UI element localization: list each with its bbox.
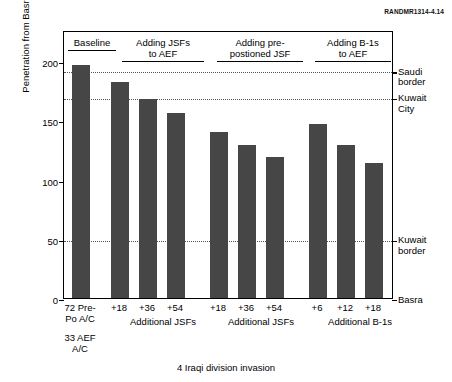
x-tick-label: +54 [155,302,195,313]
reference-line-saudi [64,72,392,73]
reference-tickmark [392,99,397,100]
reference-label-line1: Basra [398,295,423,306]
group-header-line1: Baseline [66,38,118,49]
x-tick-line2: Po A/C [48,313,112,324]
reference-tickmark [392,72,397,73]
y-axis-tick-150: 150 [24,117,64,128]
x-tick-label: +18 [353,302,393,313]
x-tick-line4: A/C [48,343,112,354]
figure-root: RANDMR1314-4.14 Penetration from Basra (… [0,0,452,382]
group-header-rule [68,50,116,51]
source-id-label: RANDMR1314-4.14 [384,8,444,15]
bar [337,145,355,298]
group-header-rule [217,61,303,62]
group-header-1: Baseline [66,38,118,51]
reference-label-line2: border [398,77,425,88]
bar [266,157,284,298]
group-header-2: Adding JSFsto AEF [120,38,206,62]
x-tick-line3: 33 AEF [48,332,112,343]
y-axis-tick-100: 100 [24,176,64,187]
group-header-line1: Adding B-1s [313,38,393,49]
reference-tickmark [392,300,397,301]
group-header-3: Adding pre-postioned JSF [215,38,305,62]
reference-label-saudi: Saudiborder [398,66,425,87]
reference-label-line2: border [398,245,427,256]
bar [238,145,256,298]
bar [309,124,327,298]
group-header-line2: to AEF [120,49,206,60]
reference-label-line2: City [398,103,427,114]
group-header-line2: to AEF [313,49,393,60]
reference-tickmark [392,241,397,242]
x-tick-label: +54 [254,302,294,313]
group-header-line2: postioned JSF [215,49,305,60]
bar [210,132,228,298]
y-axis-tick-50: 50 [24,235,64,246]
group-header-rule [315,61,391,62]
reference-label-line1: Kuwait [398,235,427,246]
reference-label-kuwait: KuwaitCity [398,93,427,114]
plot-frame: Penetration from Basra (km) 050100150200… [63,31,393,299]
bar [111,82,129,298]
figure-caption: 4 Iraqi division invasion [0,362,452,373]
y-axis-tickmark [59,300,64,301]
group-header-4: Adding B-1sto AEF [313,38,393,62]
group-header-rule [122,61,204,62]
bar [139,99,157,298]
y-axis-tickmark [59,63,64,64]
y-axis-tick-200: 200 [24,58,64,69]
reference-label-line1: Kuwait [398,93,427,104]
y-axis-tickmark [59,122,64,123]
reference-label-basra: Basra [398,295,423,306]
bar [72,65,90,298]
reference-label-kuwait: Kuwaitborder [398,235,427,256]
group-header-line1: Adding pre- [215,38,305,49]
group-header-line1: Adding JSFs [120,38,206,49]
reference-label-line1: Saudi [398,66,425,77]
bar [167,113,185,298]
group-subtitle-4: Additional B-1s [300,316,420,327]
bar [365,163,383,298]
y-axis-tickmark [59,182,64,183]
